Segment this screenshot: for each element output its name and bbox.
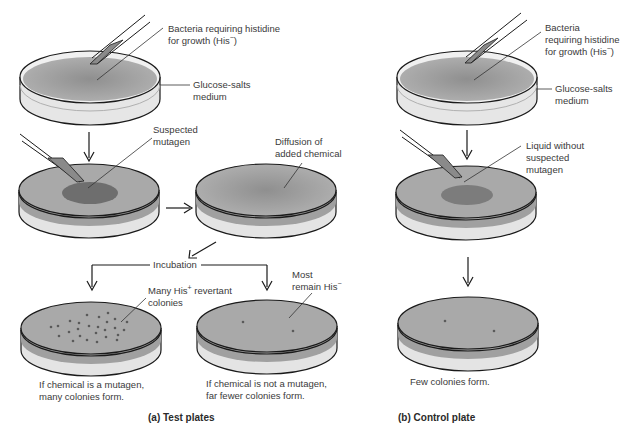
plate-b-liquid bbox=[396, 166, 536, 240]
label-diffusion: Diffusion of added chemical bbox=[275, 136, 342, 160]
label-bacteria: Bacteria requiring histidine for growth … bbox=[168, 23, 280, 47]
plate-a-diffusion bbox=[196, 164, 336, 238]
label-bacteria-control: Bacteria requiring histidine for growth … bbox=[545, 22, 619, 58]
label-medium-control: Glucose-salts medium bbox=[555, 83, 613, 107]
plate-a-many-colonies bbox=[21, 302, 161, 376]
result-control: Few colonies form. bbox=[410, 376, 490, 388]
result-mutagen: If chemical is a mutagen, many colonies … bbox=[39, 379, 144, 403]
label-medium: Glucose-salts medium bbox=[193, 79, 251, 103]
plate-a-few-colonies bbox=[197, 300, 337, 374]
arrow-down-icon bbox=[462, 130, 472, 159]
label-most-remain: Most remain His− bbox=[292, 269, 342, 293]
caption-test-plates: (a) Test plates bbox=[148, 412, 215, 424]
plate-a-initial bbox=[20, 51, 160, 125]
caption-control-plate: (b) Control plate bbox=[398, 412, 475, 424]
plate-a-mutagen bbox=[19, 164, 159, 238]
plate-b-few-colonies bbox=[398, 297, 538, 371]
arrow-right-icon bbox=[166, 203, 192, 213]
result-not-mutagen: If chemical is not a mutagen, far fewer … bbox=[206, 378, 327, 402]
label-suspected-mutagen: Suspected mutagen bbox=[153, 124, 198, 148]
arrow-diagonal-icon bbox=[189, 242, 216, 258]
arrow-down-icon bbox=[463, 257, 473, 286]
label-revertant-colonies: Many His+ revertant colonies bbox=[148, 285, 232, 309]
label-liquid-without-mutagen: Liquid without suspected mutagen bbox=[526, 140, 584, 176]
label-incubation: Incubation bbox=[153, 259, 197, 271]
arrow-down-icon bbox=[84, 132, 94, 161]
ames-test-diagram bbox=[0, 0, 631, 434]
